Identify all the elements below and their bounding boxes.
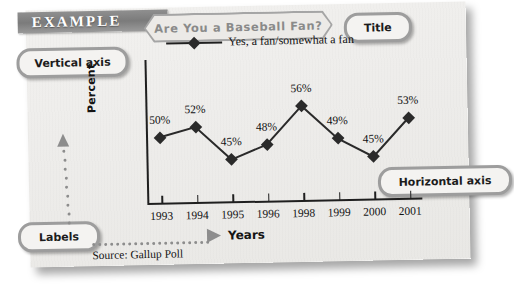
x-axis-tick: [232, 194, 234, 202]
labels-pointer-arrowhead-icon: [207, 229, 221, 243]
x-axis-tick-label: 1993: [150, 210, 173, 222]
x-axis-tick-label: 1998: [292, 207, 315, 219]
pointer-dot: [134, 242, 137, 245]
page-content-layer: EXAMPLE Are You a Baseball Fan? Title Ve…: [25, 2, 470, 268]
data-point-label: 52%: [184, 103, 205, 115]
x-axis-tick-label: 1996: [256, 207, 279, 219]
pointer-dot: [65, 186, 68, 189]
pointer-dot: [122, 242, 125, 245]
pointer-dot: [200, 241, 203, 244]
pointer-dot: [158, 242, 161, 245]
data-point-label: 45%: [220, 135, 241, 147]
chart-source-note: Source: Gallup Poll: [92, 247, 183, 261]
x-axis-title: Years: [228, 228, 265, 243]
x-axis-tick: [303, 193, 305, 201]
x-axis-tick: [197, 195, 199, 203]
pointer-dot: [176, 241, 179, 244]
x-axis-tick-label: 1995: [221, 208, 244, 220]
x-axis-tick-label: 1994: [185, 209, 208, 221]
line-chart: Percent 50%52%45%48%56%49%45%53% 1993199…: [86, 54, 429, 221]
chart-legend: Yes, a fan/somewhat a fan: [166, 32, 354, 51]
x-axis-tick: [339, 192, 341, 200]
x-axis-tick-label: 2001: [398, 205, 421, 217]
pointer-dot: [152, 242, 155, 245]
pointer-dot: [66, 204, 69, 207]
pointer-dot: [146, 242, 149, 245]
x-axis-tick: [410, 191, 412, 199]
pointer-dot: [66, 195, 69, 198]
x-axis-tick-label: 2000: [363, 205, 386, 217]
pointer-dot: [68, 222, 71, 225]
pointer-dot: [104, 243, 107, 246]
pointer-dot: [140, 242, 143, 245]
legend-marker-diamond-icon: [166, 41, 222, 44]
data-point-label: 49%: [327, 114, 348, 126]
pointer-dot: [170, 242, 173, 245]
data-point-label: 56%: [290, 82, 311, 94]
pointer-dot: [63, 159, 66, 162]
pointer-dot: [128, 242, 131, 245]
pointer-dot: [67, 213, 70, 216]
pointer-dot: [64, 177, 67, 180]
pointer-dot: [164, 242, 167, 245]
pointer-dot: [62, 150, 65, 153]
x-axis-tick: [161, 196, 163, 204]
pointer-dot: [194, 241, 197, 244]
callout-title-label: Title: [364, 21, 392, 35]
pointer-dot: [116, 243, 119, 246]
pointer-dot: [110, 243, 113, 246]
data-point-label: 45%: [362, 133, 383, 145]
pointer-dot: [98, 243, 101, 246]
callout-labels-label: Labels: [39, 230, 79, 244]
x-axis-tick-label: 1999: [327, 206, 350, 218]
data-point-label: 48%: [256, 120, 277, 132]
pointer-dot: [92, 243, 95, 246]
vertical-pointer-arrowhead-icon: [57, 134, 69, 147]
pointer-dot: [188, 241, 191, 244]
data-point-label: 50%: [149, 113, 170, 125]
pointer-dot: [64, 168, 67, 171]
legend-entry-label: Yes, a fan/somewhat a fan: [228, 32, 354, 50]
x-axis-tick: [268, 194, 270, 202]
callout-labels: Labels: [18, 221, 101, 253]
data-point-label: 53%: [397, 94, 418, 106]
x-axis-tick: [374, 191, 376, 199]
pointer-dot: [182, 241, 185, 244]
